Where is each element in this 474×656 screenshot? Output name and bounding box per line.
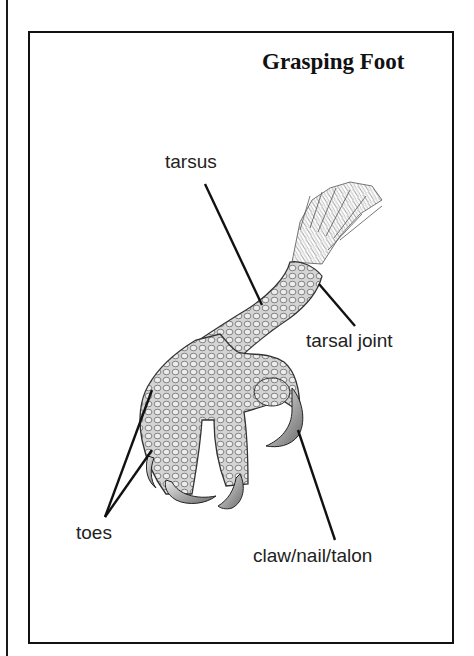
tarsal-joint-leader bbox=[319, 284, 355, 326]
label-tarsal-joint: tarsal joint bbox=[306, 330, 393, 352]
label-tarsus: tarsus bbox=[165, 151, 217, 173]
toes-leader-lower bbox=[105, 450, 152, 517]
tarsus-leader bbox=[205, 184, 262, 305]
rear-toe-pad bbox=[254, 378, 290, 406]
claw-leader bbox=[298, 430, 335, 540]
foot-body bbox=[140, 334, 300, 494]
feather-tuft bbox=[292, 182, 382, 264]
label-toes: toes bbox=[76, 522, 112, 544]
grasping-foot-illustration bbox=[0, 0, 474, 656]
label-claw-nail-talon: claw/nail/talon bbox=[253, 545, 372, 567]
